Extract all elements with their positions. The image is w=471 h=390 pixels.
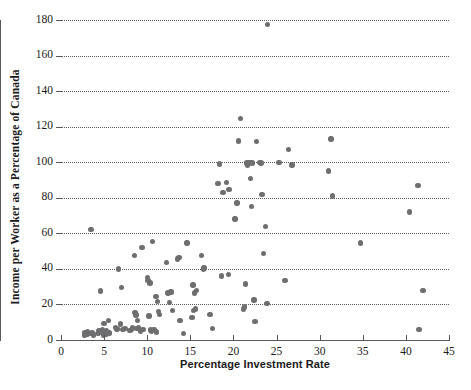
data-point (147, 280, 152, 285)
x-tick-mark (104, 335, 105, 341)
data-point (207, 312, 212, 317)
data-point (415, 183, 420, 188)
x-tick-mark (406, 335, 407, 341)
data-point (107, 330, 112, 335)
data-point (224, 180, 229, 185)
x-tick-label: 5 (89, 345, 119, 357)
data-point (420, 288, 425, 293)
data-point (250, 160, 255, 165)
data-point (243, 281, 248, 286)
x-tick-label: 15 (175, 345, 205, 357)
data-point (119, 285, 124, 290)
y-tick-label: 40 (19, 261, 53, 273)
data-point (248, 176, 253, 181)
x-tick-label: 35 (348, 345, 378, 357)
y-tick-label: 140 (19, 84, 53, 96)
data-point (194, 288, 199, 293)
data-point (226, 187, 231, 192)
data-point (286, 147, 291, 152)
x-tick-mark (233, 335, 234, 341)
data-point (169, 289, 174, 294)
gridline (61, 127, 449, 128)
y-tick-label: 0 (19, 333, 53, 345)
data-point (326, 168, 331, 173)
data-point (199, 253, 204, 258)
x-tick-label: 40 (391, 345, 421, 357)
data-point (139, 245, 144, 250)
data-point (146, 313, 151, 318)
data-point (254, 139, 259, 144)
data-point (265, 22, 270, 27)
data-point (135, 318, 140, 323)
data-point (132, 253, 137, 258)
data-point (219, 273, 224, 278)
x-tick-mark (277, 335, 278, 341)
x-tick-label: 45 (434, 345, 464, 357)
data-point (416, 327, 421, 332)
gridline (61, 304, 449, 305)
data-point (114, 326, 119, 331)
x-tick-mark (320, 335, 321, 341)
data-point (261, 251, 266, 256)
y-tick-label: 120 (19, 119, 53, 131)
data-point (263, 224, 268, 229)
x-tick-mark (449, 335, 450, 341)
data-point (226, 272, 231, 277)
y-tick-label: 60 (19, 226, 53, 238)
data-point (242, 304, 247, 309)
data-point (88, 227, 93, 232)
data-point (106, 318, 111, 323)
data-point (217, 161, 222, 166)
data-point (133, 312, 138, 317)
data-point (236, 138, 241, 143)
data-point (220, 190, 225, 195)
x-tick-mark (147, 335, 148, 341)
x-tick-label: 25 (262, 345, 292, 357)
data-point (177, 318, 182, 323)
data-point (258, 160, 263, 165)
data-point (330, 193, 335, 198)
gridline (61, 20, 449, 21)
data-point (189, 315, 194, 320)
x-tick-mark (190, 335, 191, 341)
gridline (61, 198, 449, 199)
y-tick-label: 20 (19, 297, 53, 309)
data-point (259, 192, 264, 197)
x-tick-label: 0 (46, 345, 76, 357)
data-point (358, 240, 363, 245)
data-point (116, 266, 121, 271)
data-point (238, 116, 243, 121)
data-point (249, 204, 254, 209)
y-tick-label: 160 (19, 48, 53, 60)
data-point (264, 301, 269, 306)
data-point (282, 278, 287, 283)
data-point (184, 240, 189, 245)
data-point (234, 200, 239, 205)
y-tick-label: 100 (19, 155, 53, 167)
data-point (157, 312, 162, 317)
data-point (276, 160, 281, 165)
data-point (289, 162, 294, 167)
gridline (61, 56, 449, 57)
x-axis-title: Percentage Investment Rate (61, 358, 449, 370)
data-point (164, 260, 169, 265)
data-point (190, 282, 195, 287)
gridline (61, 233, 449, 234)
scatter-chart-figure: Income per Worker as a Percentage of Can… (0, 0, 471, 390)
data-point (328, 136, 333, 141)
plot-area (61, 20, 449, 340)
data-point (210, 326, 215, 331)
data-point (215, 181, 220, 186)
x-tick-label: 20 (218, 345, 248, 357)
data-point (201, 265, 206, 270)
data-point (407, 209, 412, 214)
gridline (61, 91, 449, 92)
data-point (251, 297, 256, 302)
data-point (154, 329, 159, 334)
data-point (150, 239, 155, 244)
data-point (176, 255, 181, 260)
y-tick-label: 80 (19, 190, 53, 202)
x-tick-mark (363, 335, 364, 341)
x-tick-mark (61, 335, 62, 341)
y-tick-label: 180 (19, 13, 53, 25)
